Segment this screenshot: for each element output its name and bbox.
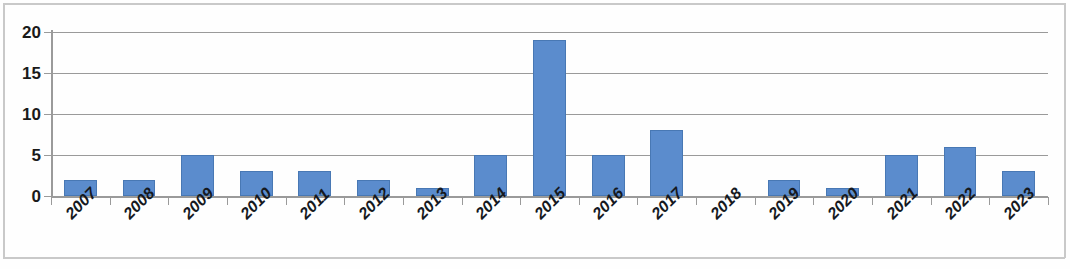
y-axis-label-5: 5 <box>5 147 41 164</box>
bar-slot-2015 <box>520 32 579 196</box>
x-axis-tick-2013 <box>403 197 404 205</box>
x-axis-tick-2011 <box>286 197 287 205</box>
x-axis-tick-end <box>1048 197 1049 205</box>
bar-slot-2008 <box>110 32 169 196</box>
x-axis-tick-2018 <box>696 197 697 205</box>
x-axis-tick-labels: 2007200820092010201120122013201420152016… <box>51 206 1048 266</box>
bar-chart-figure: 05101520 2007200820092010201120122013201… <box>0 0 1070 269</box>
x-axis-tick-2014 <box>462 197 463 205</box>
bar-slot-2022 <box>931 32 990 196</box>
bar-slot-2010 <box>227 32 286 196</box>
bar-2015[interactable] <box>533 40 566 196</box>
page-frame-top-border <box>3 3 1065 5</box>
x-axis-tick-2020 <box>813 197 814 205</box>
x-axis-tick-2016 <box>579 197 580 205</box>
x-axis-tick-2015 <box>520 197 521 205</box>
x-axis-tick-2019 <box>755 197 756 205</box>
y-axis-label-15: 15 <box>5 65 41 82</box>
bar-slot-2016 <box>579 32 638 196</box>
y-axis-tick-10 <box>44 114 52 115</box>
y-axis-tick-5 <box>44 155 52 156</box>
bar-slot-2007 <box>51 32 110 196</box>
bar-slot-2012 <box>344 32 403 196</box>
x-axis-tick-2021 <box>872 197 873 205</box>
x-axis-tick-2008 <box>110 197 111 205</box>
x-axis-tick-2023 <box>989 197 990 205</box>
bar-slot-2009 <box>168 32 227 196</box>
bar-slot-2011 <box>286 32 345 196</box>
bar-slot-2021 <box>872 32 931 196</box>
bar-2017[interactable] <box>650 130 683 196</box>
bar-slot-2014 <box>462 32 521 196</box>
x-axis-tick-2009 <box>168 197 169 205</box>
y-axis-label-0: 0 <box>5 188 41 205</box>
bar-slot-2019 <box>755 32 814 196</box>
bar-slot-2023 <box>989 32 1048 196</box>
y-axis-tick-15 <box>44 73 52 74</box>
bar-slot-2018 <box>696 32 755 196</box>
bar-slot-2020 <box>813 32 872 196</box>
y-axis-tick-labels: 05101520 <box>0 0 41 269</box>
bar-slot-2013 <box>403 32 462 196</box>
y-axis-label-10: 10 <box>5 106 41 123</box>
page-frame-right-border <box>1064 3 1066 258</box>
bars-layer <box>51 32 1048 196</box>
y-axis-tick-20 <box>44 32 52 33</box>
x-axis-tick-2012 <box>344 197 345 205</box>
x-axis-tick-2022 <box>931 197 932 205</box>
y-axis-label-20: 20 <box>5 24 41 41</box>
x-axis-tick-2010 <box>227 197 228 205</box>
x-axis-tick-2007 <box>51 197 52 205</box>
x-axis-tick-2017 <box>637 197 638 205</box>
bar-slot-2017 <box>637 32 696 196</box>
